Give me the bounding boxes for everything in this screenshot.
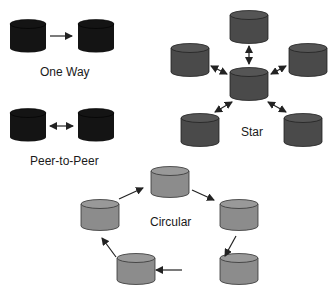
double-arrow-icon [215,102,232,112]
database-cylinder-ring-top [151,167,189,198]
database-cylinder-star-right [289,44,327,77]
one-way-group [10,20,114,53]
arrow-icon [119,188,143,199]
database-cylinder-star-bottom-right [284,114,322,147]
database-cylinder-target [78,20,114,53]
database-cylinder-ring-right [220,200,258,231]
database-cylinder-star-center [230,68,268,101]
database-cylinder-peer-b [78,109,114,142]
label-star: Star [241,125,263,139]
double-arrow-icon [271,66,286,74]
label-one-way: One Way [40,65,90,79]
database-cylinder-ring-bottom-left [117,254,155,285]
database-cylinder-source [10,20,46,53]
arrow-icon [225,236,236,256]
double-arrow-icon [268,102,286,112]
database-cylinder-star-bottom-left [181,114,219,147]
arrow-icon [102,238,116,257]
label-circular: Circular [150,215,191,229]
database-cylinder-star-top [230,11,268,44]
database-cylinder-star-left [171,44,209,77]
peer-to-peer-group [10,109,114,142]
double-arrow-icon [211,66,227,74]
database-cylinder-ring-left [81,200,119,231]
arrow-icon [192,190,214,200]
label-peer-to-peer: Peer-to-Peer [30,154,99,168]
database-cylinder-ring-bottom-right [220,254,258,285]
database-cylinder-peer-a [10,109,46,142]
topology-diagram [0,0,333,294]
